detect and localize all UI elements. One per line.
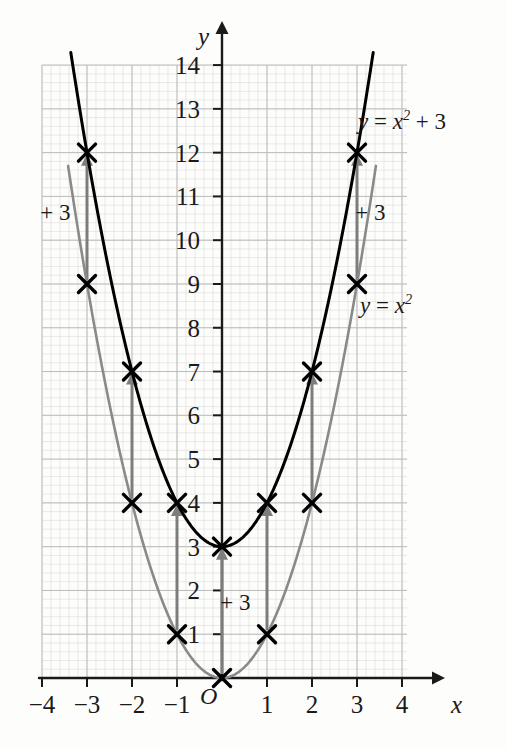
annotation-shift-center: + 3 [220, 591, 250, 614]
y-axis-tick-label-10: 10 [166, 228, 200, 253]
y-axis-tick-label-1: 1 [166, 622, 200, 647]
x-axis-tick-label-1: 1 [245, 692, 289, 717]
curve-label-base: x [395, 293, 405, 318]
y-axis-tick-label-7: 7 [166, 360, 200, 385]
curve-label-y-equals-x-squared: y = x2 [360, 292, 412, 317]
y-axis-tick-label-8: 8 [166, 316, 200, 341]
annotation-shift-left: + 3 [40, 201, 70, 224]
x-axis-tick-label--1: −1 [155, 692, 199, 717]
y-axis-tick-label-4: 4 [166, 491, 200, 516]
y-axis-tick-label-9: 9 [166, 272, 200, 297]
annotation-shift-right: + 3 [355, 201, 385, 224]
y-axis-tick-label-2: 2 [166, 578, 200, 603]
y-axis-tick-label-3: 3 [166, 535, 200, 560]
y-axis-tick-label-5: 5 [166, 447, 200, 472]
y-axis-tick-label-11: 11 [166, 184, 200, 209]
y-axis-tick-label-6: 6 [166, 403, 200, 428]
translation-arrow [261, 504, 273, 630]
curve-label-lhs: y [360, 293, 370, 318]
x-axis-tick-label-2: 2 [290, 692, 334, 717]
x-axis-tick-label-4: 4 [380, 692, 424, 717]
y-axis-arrow-icon [216, 21, 229, 34]
y-axis-tick-label-14: 14 [166, 53, 200, 78]
curve-label-base: x [393, 109, 403, 134]
curve-label-exponent: 2 [403, 107, 410, 123]
curve-label-y-equals-x-squared-plus-3: y = x2 + 3 [358, 108, 446, 133]
y-axis-name: y [198, 24, 209, 49]
curve-label-exponent: 2 [405, 291, 412, 307]
y-axis-tick-label-13: 13 [166, 97, 200, 122]
translation-arrow [171, 504, 183, 630]
x-axis-name: x [451, 692, 462, 717]
origin-label: O [200, 684, 217, 708]
y-axis-tick-label-12: 12 [166, 141, 200, 166]
x-axis-tick-label-3: 3 [335, 692, 379, 717]
x-axis-arrow-icon [432, 672, 445, 685]
x-axis-tick-label--4: −4 [20, 692, 64, 717]
x-axis-tick-label--2: −2 [110, 692, 154, 717]
curve-label-lhs: y [358, 109, 368, 134]
x-axis-tick-label--3: −3 [65, 692, 109, 717]
graph-figure: 1234567891011121314−4−3−2−11234Oyxy = x2… [0, 0, 507, 749]
